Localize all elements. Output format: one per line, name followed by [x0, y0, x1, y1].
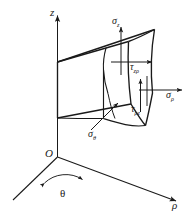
sigma-theta-subscript: θ	[93, 134, 96, 141]
axis-label-rho: ρ	[172, 200, 177, 211]
sigma-z-label: σz	[112, 16, 119, 28]
angle-label-theta: θ	[60, 188, 65, 199]
theta-arc	[45, 175, 83, 183]
tau-z-rho-subscript: zρ	[134, 67, 139, 74]
sigma-rho-subscript: ρ	[171, 95, 174, 102]
tau-rho-z-label: τρz	[131, 104, 140, 116]
inner-arc-lower	[108, 94, 115, 119]
tau-z-rho-label: τzρ	[130, 62, 139, 74]
sigma-rho-arrow-group	[139, 76, 182, 106]
figure-canvas	[0, 0, 192, 220]
tau-rho-z-subscript: ρz	[135, 109, 140, 116]
sigma-theta-label: σθ	[88, 129, 96, 141]
axis-rho	[58, 157, 177, 201]
rho-axis-line	[58, 157, 177, 201]
angle-theta-arc	[45, 175, 83, 183]
axis-label-z: z	[50, 7, 54, 18]
stress-element-figure: z ρ O θ σz τzρ σρ τρz σθ	[0, 0, 192, 220]
lower-outer-edge	[104, 119, 146, 126]
origin-label: O	[45, 148, 53, 159]
top-face-near-edge	[58, 42, 129, 63]
lower-inner-edge	[58, 118, 104, 119]
sigma-z-subscript: z	[117, 21, 119, 28]
front-face-bottom-edge	[58, 104, 132, 118]
sigma-rho-label: σρ	[166, 90, 174, 102]
